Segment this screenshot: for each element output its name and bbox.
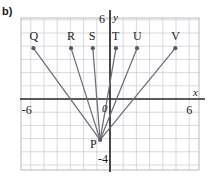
ray-segment-p-u [100, 48, 137, 140]
origin-label: 0 [102, 103, 108, 114]
x-tick-label-6: 6 [186, 104, 192, 116]
ray-segment-p-v [100, 48, 175, 140]
point-marker-p [98, 138, 102, 142]
point-marker-q [31, 46, 35, 50]
figure-panel: b) PQRSTUV-666-40xy [0, 0, 211, 178]
point-label-s: S [89, 30, 96, 42]
point-marker-t [114, 46, 118, 50]
point-marker-r [69, 46, 73, 50]
point-label-u: U [133, 30, 142, 42]
y-axis-label: y [113, 12, 118, 23]
point-marker-u [135, 46, 139, 50]
point-label-p: P [90, 138, 97, 150]
point-marker-v [173, 46, 177, 50]
point-label-q: Q [29, 30, 38, 42]
point-label-v: V [171, 30, 180, 42]
ray-segment-p-r [71, 48, 100, 140]
x-axis-label: x [193, 87, 198, 98]
y-tick-label-6: 6 [99, 13, 105, 25]
ray-segment-p-q [33, 48, 100, 140]
x-tick-label-minus6: -6 [22, 104, 32, 116]
ray-segment-p-t [100, 48, 116, 140]
point-marker-s [91, 46, 95, 50]
ray-segments [33, 48, 175, 140]
point-label-r: R [67, 30, 75, 42]
point-label-t: T [112, 30, 119, 42]
y-tick-label-minus4: -4 [98, 153, 108, 165]
